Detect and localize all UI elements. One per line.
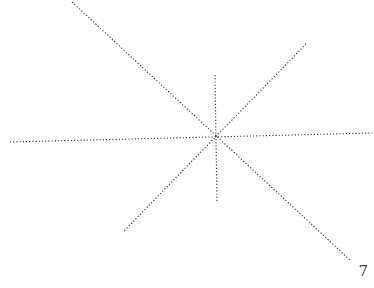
page-number: 7	[358, 262, 368, 280]
diagonal-line-ascending	[124, 44, 306, 231]
intersecting-lines-diagram	[0, 0, 374, 288]
vertical-line	[215, 75, 217, 203]
horizontal-line	[10, 133, 372, 142]
diagonal-line-descending	[72, 2, 350, 260]
